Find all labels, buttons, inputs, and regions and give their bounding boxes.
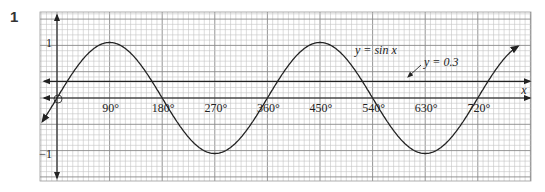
y-tick-label: −1 (39, 147, 52, 161)
x-tick-label: 540° (362, 101, 385, 115)
line-label: y = 0.3 (423, 55, 458, 69)
x-tick-label: 720° (467, 101, 490, 115)
x-tick-label: 450° (310, 101, 333, 115)
axes (44, 15, 530, 178)
sine-graph: 90°180°270°360°450°540°630°720°1−1xy = s… (0, 0, 545, 192)
y-tick-label: 1 (46, 36, 52, 50)
x-axis-label: x (520, 83, 527, 97)
x-tick-label: 270° (204, 101, 227, 115)
sine-curve-label: y = sin x (354, 43, 397, 57)
x-tick-label: 630° (415, 101, 438, 115)
x-tick-label: 90° (102, 101, 119, 115)
grid-paper (40, 12, 531, 181)
x-tick-label: 180° (152, 101, 175, 115)
x-tick-label: 360° (257, 101, 280, 115)
